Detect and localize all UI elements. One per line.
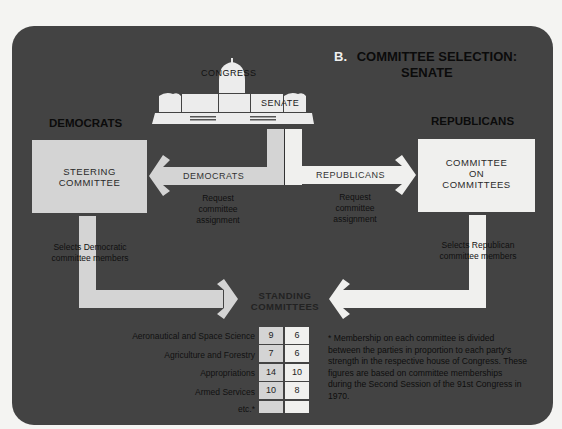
democrats-arrow-label: DEMOCRATS — [183, 171, 244, 181]
senate-label: SENATE — [261, 98, 299, 108]
title-line2: SENATE — [401, 65, 453, 80]
standing-committees-label: STANDING COMMITTEES — [245, 290, 325, 312]
democrats-selects-arrow — [79, 216, 238, 319]
footnote: * Membership on each committee is divide… — [328, 333, 528, 403]
steering-committee-label: STEERING COMMITTEE — [32, 166, 147, 188]
congress-label: CONGRESS — [201, 68, 257, 78]
democrats-request-arrow — [149, 129, 284, 196]
committee-on-committees-label: COMMITTEE ON COMMITTEES — [418, 157, 535, 190]
democrats-header: DEMOCRATS — [49, 117, 122, 129]
republicans-selects-label: Selects Republican committee members — [428, 240, 528, 262]
diagram-title: B. COMMITTEE SELECTION: — [334, 49, 517, 64]
democrats-request-label: Request committee assignment — [188, 193, 248, 226]
republicans-request-label: Request committee assignment — [325, 192, 385, 225]
democrats-selects-label: Selects Democratic committee members — [40, 242, 140, 264]
republicans-request-arrow — [284, 129, 416, 195]
title-prefix: B. — [334, 49, 347, 64]
republicans-arrow-label: REPUBLICANS — [316, 170, 385, 180]
title-line1: COMMITTEE SELECTION: — [357, 49, 517, 64]
republicans-header: REPUBLICANS — [431, 115, 514, 127]
republicans-selects-arrow — [329, 215, 486, 319]
